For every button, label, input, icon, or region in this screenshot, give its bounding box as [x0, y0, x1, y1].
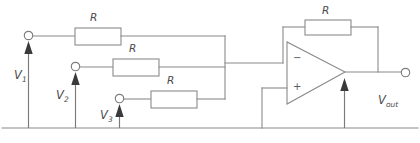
- label-v2-subscript: 2: [64, 95, 69, 104]
- terminal-v2[interactable]: [71, 62, 79, 70]
- label-v3-subscript: 3: [108, 115, 113, 124]
- voltage-arrow-v2: [71, 72, 79, 128]
- label-v2-symbol: V: [56, 88, 64, 102]
- opamp-noninverting-sign: +: [293, 82, 301, 92]
- resistor-input-3-label: R: [167, 75, 174, 86]
- resistor-input-2-label: R: [129, 43, 136, 54]
- label-v1: V1: [14, 70, 27, 84]
- label-vout-symbol: V: [378, 93, 386, 107]
- resistor-feedback-label: R: [322, 5, 329, 16]
- voltage-arrow-v1: [24, 41, 32, 128]
- label-v1-subscript: 1: [22, 75, 27, 84]
- resistor-input-1-label: R: [90, 12, 97, 23]
- circuit-schematic-svg: [0, 0, 420, 143]
- voltage-arrow-v3: [115, 104, 123, 128]
- terminal-vout[interactable]: [401, 68, 409, 76]
- resistor-input-2: [113, 59, 159, 76]
- label-vout: Vout: [378, 95, 398, 109]
- resistor-input-1: [75, 28, 121, 45]
- label-v3-symbol: V: [100, 108, 108, 122]
- circuit-diagram-canvas: R R R R − + V1 V2 V3 Vout: [0, 0, 420, 143]
- terminal-v3[interactable]: [115, 94, 123, 102]
- label-v3: V3: [100, 110, 113, 124]
- opamp-inverting-sign: −: [293, 53, 301, 63]
- label-vout-subscript: out: [386, 100, 398, 109]
- terminal-v1[interactable]: [24, 31, 32, 39]
- voltage-arrow-vout: [340, 78, 348, 128]
- label-v2: V2: [56, 90, 69, 104]
- resistor-input-3: [151, 91, 197, 108]
- label-v1-symbol: V: [14, 68, 22, 82]
- resistor-feedback: [305, 20, 351, 35]
